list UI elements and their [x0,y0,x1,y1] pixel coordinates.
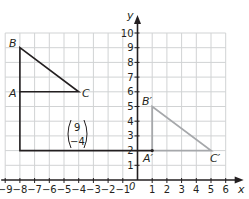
vertex-label-a: A [8,87,17,100]
x-tick-label: −4 [71,184,86,195]
x-tick-label: −5 [57,184,72,195]
x-tick-label: −7 [27,184,42,195]
x-tick-label: 5 [208,184,214,195]
vertex-label-c: C [82,87,90,100]
y-tick-label: 3 [127,130,133,141]
vertex-label-c-prime: C′ [210,152,221,165]
x-tick-label: 4 [193,184,199,195]
y-tick-label: 5 [127,101,133,112]
axis-label-x: x [237,183,245,196]
y-tick-label: 8 [127,57,133,68]
vector-top: 9 [74,122,80,133]
x-tick-label: −9 [0,184,13,195]
shapes [20,48,211,153]
vector-bottom: −4 [70,136,85,147]
vertex-label-a-prime: A′ [142,152,154,165]
origin-label: 0 [129,181,135,192]
translation-vector: 9 −4 [68,120,87,148]
y-tick-label: 10 [121,28,134,39]
y-tick-label: 6 [127,86,133,97]
x-tick-label: −2 [101,184,116,195]
x-tick-label: 1 [149,184,155,195]
x-tick-label: −6 [42,184,57,195]
x-tick-label: 2 [164,184,170,195]
vertex-label-b-prime: B′ [142,95,153,108]
grid-lines [5,33,226,180]
y-tick-label: 9 [127,42,133,53]
y-axis-arrow-icon [134,15,141,24]
x-tick-label: −8 [13,184,28,195]
y-tick-label: 4 [127,116,133,127]
coordinate-grid-diagram: −9−8−7−6−5−4−3−2−112345612345678910 B A … [0,0,249,199]
x-tick-label: 6 [223,184,229,195]
axis-label-y: y [126,9,134,22]
y-tick-label: 7 [127,72,133,83]
vertex-label-b: B [9,37,17,50]
x-tick-label: −1 [115,184,130,195]
x-tick-label: −3 [86,184,101,195]
x-tick-label: 3 [178,184,184,195]
y-tick-label: 1 [127,160,133,171]
axes: −9−8−7−6−5−4−3−2−112345612345678910 [0,15,244,195]
